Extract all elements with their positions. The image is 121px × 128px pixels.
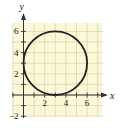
x-axis-arrow-icon: [101, 93, 108, 98]
y-axis-label: y: [19, 1, 25, 12]
x-tick-label: 6: [85, 98, 90, 108]
y-axis-arrow-icon: [21, 13, 26, 20]
circle-graph: 246−2246 x y: [0, 0, 121, 128]
x-tick-label: 2: [42, 98, 47, 108]
y-tick-label: 4: [14, 48, 19, 58]
y-tick-label: 2: [14, 69, 19, 79]
y-tick-label: −2: [9, 111, 19, 121]
y-tick-label: 6: [14, 26, 19, 36]
x-tick-label: 4: [64, 98, 69, 108]
x-axis-label: x: [109, 90, 115, 101]
